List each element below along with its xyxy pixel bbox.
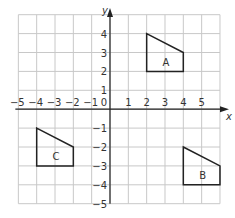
x-tick-label: −1 xyxy=(83,97,98,108)
x-tick-label: 3 xyxy=(162,97,168,108)
shape-label: C xyxy=(53,151,60,162)
y-tick-label: −1 xyxy=(92,123,107,134)
y-tick-label: 1 xyxy=(101,85,107,96)
y-tick-label: −5 xyxy=(92,199,107,210)
y-tick-label: −2 xyxy=(92,142,107,153)
y-axis-label: y xyxy=(101,5,109,16)
x-tick-label: 4 xyxy=(180,97,186,108)
origin-label: 0 xyxy=(101,97,107,108)
y-tick-label: 3 xyxy=(101,48,107,59)
x-axis-label: x xyxy=(225,111,232,122)
x-tick-label: −3 xyxy=(47,97,62,108)
x-tick-label: 1 xyxy=(125,97,131,108)
y-tick-label: 2 xyxy=(101,66,107,77)
y-tick-label: −4 xyxy=(92,180,107,191)
shape-label: B xyxy=(199,170,206,181)
shape-label: A xyxy=(163,57,170,68)
x-tick-label: 2 xyxy=(143,97,149,108)
x-tick-label: −4 xyxy=(28,97,43,108)
x-tick-label: 5 xyxy=(198,97,204,108)
y-tick-label: 4 xyxy=(101,29,107,40)
y-tick-label: −3 xyxy=(92,161,107,172)
x-tick-label: −5 xyxy=(10,97,25,108)
x-tick-label: −2 xyxy=(65,97,80,108)
coordinate-grid: xy−5−4−3−2−11234504321−1−2−3−4−5ABC xyxy=(0,0,235,218)
